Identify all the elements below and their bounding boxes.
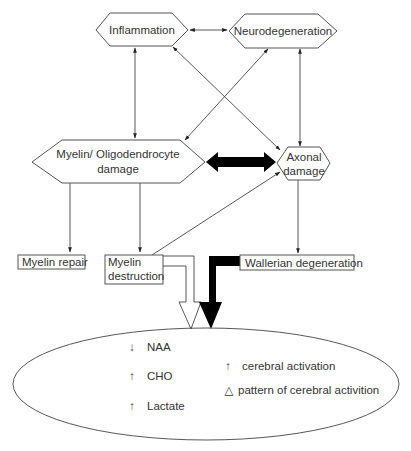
node-label-line1: Myelin [108,256,141,268]
metric-lactate: Lactate [147,400,185,412]
node-myelin-destruction: Myelin destruction [105,255,164,284]
node-myelin-repair: Myelin repair [18,255,88,269]
node-myelin-oligodendrocyte-damage: Myelin/ Oligodendrocyte damage [32,140,205,183]
metric-cho: CHO [147,370,173,382]
ms-pathology-diagram: Inflammation Neurodegeneration Myelin/ O… [0,0,411,451]
node-label: Wallerian degeneration [245,257,363,269]
outcome-ellipse: ↓ NAA ↑ CHO ↑ Lactate ↑ cerebral activat… [13,328,399,440]
outcome-right-column: ↑ cerebral activation △ pattern of cereb… [225,360,380,396]
outcome-left-column: ↓ NAA ↑ CHO ↑ Lactate [129,341,185,412]
node-neurodegeneration: Neurodegeneration [229,14,337,48]
delta-triangle-icon: △ [225,384,234,396]
node-label: Myelin repair [22,256,88,268]
node-axonal-damage: Axonal damage [277,147,330,180]
thick-double-arrow-icon [206,152,276,172]
node-label: Neurodegeneration [234,25,332,37]
node-label-line1: Myelin/ Oligodendrocyte [56,148,179,160]
effect-cerebral-activation: cerebral activation [242,360,335,372]
node-label: Inflammation [109,24,175,36]
metric-naa: NAA [147,341,171,353]
edge-inflammation-axonal-damage [173,47,280,150]
up-arrow-icon: ↑ [129,400,135,412]
effect-pattern-cerebral-activation: pattern of cerebral activition [238,384,379,396]
node-label-line2: damage [283,165,325,177]
node-label-line2: damage [97,163,139,175]
up-arrow-icon: ↑ [129,370,135,382]
node-inflammation: Inflammation [96,13,188,46]
hollow-block-arrow-icon [163,256,201,329]
solid-block-arrow-icon [199,256,240,329]
node-label-line2: destruction [108,270,164,282]
edge-myelin-destruction-axonal-damage [152,172,280,255]
node-label-line1: Axonal [286,151,321,163]
down-arrow-icon: ↓ [129,341,135,353]
up-arrow-icon: ↑ [225,360,231,372]
node-wallerian-degeneration: Wallerian degeneration [240,255,363,270]
